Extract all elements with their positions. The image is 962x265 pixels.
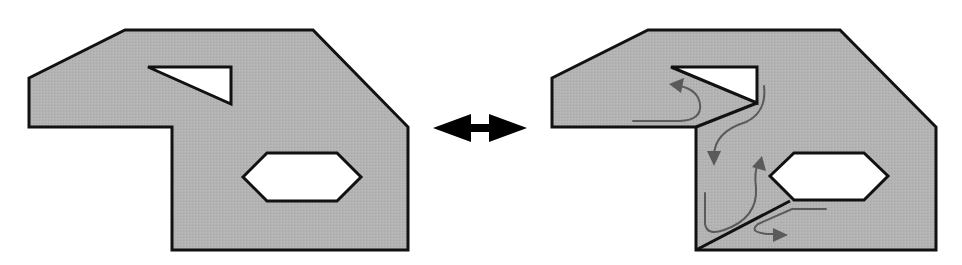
left-plate-outline xyxy=(29,30,408,250)
double-headed-arrow-icon xyxy=(433,114,527,142)
left-hexagon-hole xyxy=(243,153,361,201)
right-hexagon-hole xyxy=(770,153,888,200)
right-plate-outline xyxy=(552,30,936,250)
right-plate xyxy=(552,30,936,250)
left-plate xyxy=(29,30,408,250)
diagram-svg xyxy=(0,0,962,265)
diagram-canvas xyxy=(0,0,962,265)
